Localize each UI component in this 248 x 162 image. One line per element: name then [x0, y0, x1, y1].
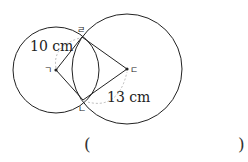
label-r: ㄹ	[77, 25, 85, 35]
segment-n-g	[56, 70, 83, 100]
segment-r-d	[82, 37, 127, 69]
length-label-10cm: 10 cm	[30, 38, 73, 54]
two-circles-diagram: ㄱ ㄷ ㄹ ㄴ 10 cm 13 cm	[0, 0, 248, 162]
point-d-dot	[125, 67, 128, 70]
label-d: ㄷ	[130, 65, 138, 75]
label-g: ㄱ	[44, 65, 52, 75]
length-label-13cm: 13 cm	[107, 89, 150, 105]
answer-close-paren: )	[238, 134, 245, 154]
point-g-dot	[54, 68, 57, 71]
label-n: ㄴ	[78, 104, 86, 114]
answer-open-paren: (	[84, 134, 91, 154]
